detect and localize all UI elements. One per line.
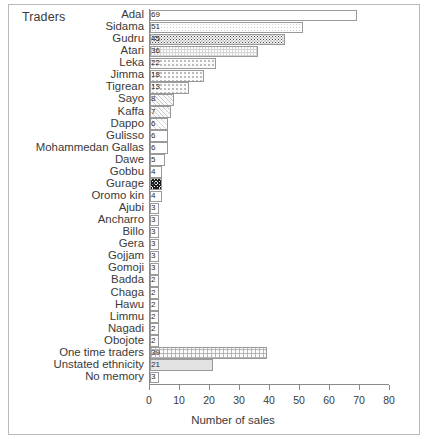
bar-row: Sidama51 (149, 21, 389, 33)
category-label: Sidama (105, 21, 144, 32)
bar-value-label: 2 (151, 313, 155, 321)
bar-row: Chaga2 (149, 286, 389, 298)
category-label: One time traders (59, 347, 144, 358)
category-label: Hawu (115, 299, 144, 310)
category-label: Gojjam (108, 251, 144, 262)
bar-value-label: 7 (151, 108, 155, 116)
category-label: Oromo kin (91, 190, 144, 201)
x-tick-label: 70 (353, 394, 365, 406)
figure-frame-right (419, 4, 420, 435)
bar-row: One time traders39 (149, 347, 389, 359)
y-axis-title: Traders (22, 10, 65, 24)
category-label: Tigrean (106, 82, 144, 93)
bar-value-label: 3 (151, 252, 155, 260)
bar-row: Gurage4 (149, 178, 389, 190)
x-tick (329, 385, 330, 390)
x-tick-label: 0 (146, 394, 152, 406)
bar-row: Limmu2 (149, 311, 389, 323)
figure-frame-left (8, 4, 9, 435)
category-label: Badda (111, 275, 144, 286)
bar[interactable] (150, 46, 258, 58)
x-tick-label: 10 (173, 394, 185, 406)
category-label: Obojote (104, 335, 144, 346)
bar-row: Sayo8 (149, 93, 389, 105)
x-axis-title: Number of sales (0, 414, 428, 426)
category-label: Unstated ethnicity (53, 359, 144, 370)
bar-value-label: 13 (151, 83, 160, 91)
x-tick (209, 385, 210, 390)
bar-value-label: 45 (151, 35, 160, 43)
bar-row: No memory3 (149, 371, 389, 383)
bar-value-label: 2 (151, 289, 155, 297)
bar-row: Billo3 (149, 226, 389, 238)
bar-value-label: 3 (151, 264, 155, 272)
bar-row: Gobbu4 (149, 166, 389, 178)
bar-value-label: 39 (151, 349, 160, 357)
bar-value-label: 6 (151, 144, 155, 152)
x-tick-label: 60 (323, 394, 335, 406)
bar-value-label: 36 (151, 47, 160, 55)
category-label: Jimma (110, 70, 144, 81)
bar[interactable] (150, 34, 285, 46)
bar-value-label: 22 (151, 59, 160, 67)
bar-value-label: 2 (151, 337, 155, 345)
bar-row: Gulisso6 (149, 130, 389, 142)
x-tick (269, 385, 270, 390)
bar-row: Dappo6 (149, 118, 389, 130)
bar[interactable] (150, 22, 303, 34)
bar-value-label: 2 (151, 276, 155, 284)
category-label: Ajubi (119, 202, 144, 213)
x-tick (299, 385, 300, 390)
bar-value-label: 69 (151, 11, 160, 19)
category-label: Gulisso (106, 130, 144, 141)
bar-row: Jimma18 (149, 69, 389, 81)
category-label: Chaga (110, 287, 144, 298)
bar-value-label: 3 (151, 373, 155, 381)
bar-row: Nagadi2 (149, 323, 389, 335)
category-label: Gera (119, 239, 144, 250)
category-label: No memory (85, 371, 144, 382)
category-label: Gurage (106, 178, 144, 189)
x-tick (149, 385, 150, 390)
bar[interactable] (150, 347, 267, 359)
category-label: Limmu (110, 311, 144, 322)
bar-row: Hawu2 (149, 299, 389, 311)
x-tick-label: 80 (383, 394, 395, 406)
bar-value-label: 6 (151, 120, 155, 128)
category-label: Atari (121, 46, 144, 57)
bar-row: Leka22 (149, 57, 389, 69)
figure-frame-top (8, 4, 420, 5)
category-label: Leka (119, 58, 144, 69)
bar-value-label: 51 (151, 23, 160, 31)
x-tick-label: 20 (203, 394, 215, 406)
category-label: Sayo (118, 94, 144, 105)
bar-value-label: 18 (151, 71, 160, 79)
bar-value-label: 6 (151, 132, 155, 140)
category-label: Ancharro (98, 214, 144, 225)
x-tick (239, 385, 240, 390)
bar-value-label: 21 (151, 361, 160, 369)
bar-row: Gera3 (149, 238, 389, 250)
bar-value-label: 4 (151, 168, 155, 176)
bar-row: Badda2 (149, 274, 389, 286)
x-tick-label: 30 (233, 394, 245, 406)
bar-row: Adal69 (149, 9, 389, 21)
figure-frame-bottom (8, 434, 420, 435)
category-label: Billo (122, 226, 144, 237)
bar-row: Obojote2 (149, 335, 389, 347)
category-label: Adal (121, 9, 144, 20)
bar[interactable] (150, 10, 357, 22)
bar-value-label: 3 (151, 216, 155, 224)
bar-value-label: 5 (151, 156, 155, 164)
category-label: Gomoji (108, 263, 144, 274)
x-tick (389, 385, 390, 390)
bar-row: Ajubi3 (149, 202, 389, 214)
x-tick-label: 40 (263, 394, 275, 406)
bar-row: Gudru45 (149, 33, 389, 45)
bar-row: Gomoji3 (149, 262, 389, 274)
bar-row: Atari36 (149, 45, 389, 57)
bar-value-label: 8 (151, 95, 155, 103)
bar-row: Oromo kin4 (149, 190, 389, 202)
category-label: Gudru (112, 33, 144, 44)
bar-row: Ancharro3 (149, 214, 389, 226)
